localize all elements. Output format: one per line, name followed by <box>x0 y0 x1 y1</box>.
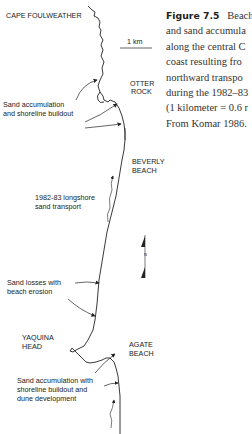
label-beverly-beach-1: BEVERLY <box>132 158 165 166</box>
caption-line-0: Beach <box>227 10 252 21</box>
caption-line-5: during the 1982–83 <box>166 85 252 100</box>
annotation-dune-1: Sand accumulation with <box>17 377 93 385</box>
caption-line-4: northward transpo <box>166 70 252 85</box>
caption-line-1: and sand accumula <box>166 23 252 38</box>
label-yaquina-head-2: HEAD <box>22 343 42 351</box>
arrow-dune-3 <box>110 400 114 428</box>
label-beverly-beach-2: BEACH <box>132 167 157 175</box>
annotation-accum-2: and shoreline buildout <box>3 110 73 118</box>
arrow-dune-2 <box>104 383 118 386</box>
annotation-transport-1: 1982-83 longshore <box>35 194 95 202</box>
caption-line-2: along the central C <box>166 39 252 54</box>
annotation-dune-3: dune development <box>17 395 76 403</box>
label-cape-foulweather: CAPE FOULWEATHER <box>6 12 82 20</box>
label-agate-beach-1: AGATE <box>129 341 153 349</box>
label-agate-beach-2: BEACH <box>129 350 154 358</box>
figure-caption: Figure 7.5 Beach and sand accumula along… <box>166 8 252 131</box>
arrow-loss-1 <box>75 282 99 283</box>
figure-label: Figure 7.5 <box>166 10 219 21</box>
annotation-loss-2: beach erosion <box>7 288 52 296</box>
annotation-transport-2: sand transport <box>35 203 81 211</box>
north-label: N <box>144 253 147 257</box>
annotation-loss-1: Sand losses with <box>7 279 61 287</box>
arrow-dune-1 <box>95 354 115 373</box>
annotation-accum-1: Sand accumulation <box>3 101 64 109</box>
arrow-loss-2 <box>68 299 95 316</box>
label-otter-rock-2: ROCK <box>131 88 152 96</box>
caption-line-6: (1 kilometer = 0.6 r <box>166 100 252 115</box>
caption-line-7: From Komar 1986. <box>166 116 252 131</box>
arrow-accum-1 <box>76 80 97 100</box>
arrow-accum-2 <box>85 104 117 122</box>
label-yaquina-head-1: YAQUINA <box>22 334 54 342</box>
caption-line-3: coast resulting fro <box>166 54 252 69</box>
annotation-dune-2: shoreline buildout and <box>17 386 87 394</box>
arrow-longshore <box>107 176 113 222</box>
scale-bar-label: 1 km <box>127 38 143 46</box>
arrow-accum-3 <box>85 124 121 128</box>
